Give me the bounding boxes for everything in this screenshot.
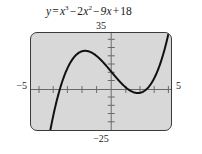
equation-operator-1: − xyxy=(69,5,78,17)
cubic-function-graph-figure: y=x3−2x2−9x+18 xyxy=(0,0,202,154)
equation-term3: 9x xyxy=(101,5,112,17)
equation-caption: y=x3−2x2−9x+18 xyxy=(0,4,178,18)
equation-operator-2: − xyxy=(92,5,101,17)
plot-window xyxy=(30,32,172,131)
equation-term4: 18 xyxy=(120,5,132,17)
equation-equals: = xyxy=(51,5,60,17)
y-min-label: −25 xyxy=(30,133,172,144)
equation-operator-3: + xyxy=(112,5,121,17)
x-max-label: 5 xyxy=(176,80,196,91)
x-min-label: −5 xyxy=(5,80,27,91)
function-curve xyxy=(44,33,172,131)
y-max-label: 35 xyxy=(30,20,172,31)
plot-canvas xyxy=(31,33,172,131)
